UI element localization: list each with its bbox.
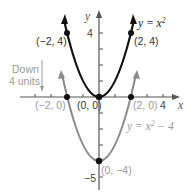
down-4-units-arrow bbox=[40, 60, 44, 92]
label-point-neg2-4: (−2, 4) bbox=[36, 35, 67, 47]
label-point-0-neg4: (0, −4) bbox=[101, 164, 132, 176]
down-label-line1: Down bbox=[12, 63, 39, 75]
arrowhead-icon bbox=[58, 70, 65, 79]
y-tick-label-neg5: −5 bbox=[84, 172, 96, 184]
arrowhead-icon bbox=[130, 14, 137, 24]
label-point-0-0: (0, 0) bbox=[77, 99, 102, 111]
arrowhead-icon bbox=[61, 14, 68, 24]
y-axis-label: y bbox=[84, 10, 91, 23]
label-point-neg2-0: (−2, 0) bbox=[35, 99, 66, 111]
x-tick-label-4: 4 bbox=[160, 99, 166, 111]
equation-y-x2-minus-4: y = x2 − 4 bbox=[126, 119, 174, 133]
equation-y-x2: y = x2 bbox=[137, 16, 166, 30]
label-point-2-4: (2, 4) bbox=[134, 35, 159, 47]
label-point-2-0: (2, 0) bbox=[133, 99, 158, 111]
x-axis-label: x bbox=[177, 99, 184, 111]
y-tick-label-4: 4 bbox=[87, 27, 93, 39]
arrowhead-icon bbox=[133, 70, 140, 79]
down-label-line2: 4 units bbox=[9, 75, 40, 87]
parabola-shift-graph: y x 4 −5 4 y = x2 (−2, 4) (2, 4) (0, 0) … bbox=[0, 0, 190, 196]
